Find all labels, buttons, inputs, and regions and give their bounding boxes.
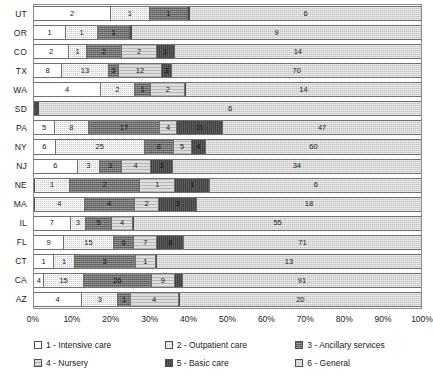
stacked-bar[interactable]: 91567871 — [33, 235, 422, 250]
bar-segment[interactable]: 8 — [34, 64, 62, 77]
bar-segment[interactable]: 4 — [160, 121, 177, 134]
bar-segment[interactable]: 6 — [114, 236, 134, 249]
legend-item[interactable]: 3 - Ancillary services — [295, 336, 426, 354]
bar-segment[interactable]: 5 — [86, 217, 112, 230]
stacked-bar[interactable]: 4212014 — [33, 82, 422, 97]
bar-segment[interactable]: 3 — [175, 274, 183, 287]
bar-segment[interactable]: 2 — [151, 83, 185, 96]
legend-item[interactable]: 1 - Intensive care — [34, 336, 165, 354]
stacked-bar[interactable]: 4314020 — [33, 292, 422, 307]
bar-segment[interactable]: 1 — [175, 179, 210, 192]
bar-segment[interactable]: 3 — [75, 255, 136, 268]
bar-segment[interactable]: 55 — [134, 217, 421, 230]
bar-segment[interactable]: 26 — [84, 274, 152, 287]
bar-segment[interactable]: 2 — [87, 45, 122, 58]
stacked-bar[interactable]: 211006 — [33, 6, 422, 21]
bar-segment[interactable]: 2 — [34, 7, 111, 20]
bar-segment[interactable]: 70 — [172, 64, 421, 77]
bar-segment[interactable]: 4 — [34, 274, 44, 287]
bar-segment[interactable]: 1 — [54, 255, 74, 268]
bar-segment[interactable]: 25 — [56, 140, 146, 153]
bar-segment[interactable]: 1 — [140, 179, 175, 192]
bar-segment[interactable]: 6 — [34, 140, 56, 153]
bar-segment[interactable]: 3 — [162, 64, 173, 77]
bar-segment[interactable]: 2 — [34, 45, 69, 58]
bar-segment[interactable]: 2 — [135, 198, 160, 211]
bar-segment[interactable]: 71 — [184, 236, 421, 249]
stacked-bar[interactable]: 1131013 — [33, 254, 422, 269]
bar-segment[interactable]: 34 — [173, 160, 421, 173]
bar-segment[interactable]: 11 — [177, 121, 223, 134]
bar-segment[interactable]: 14 — [175, 45, 421, 58]
bar-segment[interactable]: 20 — [180, 293, 421, 306]
bar-segment[interactable]: 1 — [118, 293, 130, 306]
bar-segment[interactable]: 5 — [174, 140, 192, 153]
bar-segment[interactable]: 13 — [62, 64, 108, 77]
legend-item[interactable]: 5 - Basic care — [165, 354, 296, 372]
bar-segment[interactable]: 2 — [122, 45, 157, 58]
bar-segment[interactable]: 47 — [223, 121, 421, 134]
bar-segment[interactable]: 1 — [69, 45, 87, 58]
bar-segment[interactable]: 4 — [34, 293, 82, 306]
bar-segment[interactable]: 6 — [39, 102, 421, 115]
bar-segment[interactable]: 1 — [136, 255, 156, 268]
bar-segment[interactable]: 3 — [78, 160, 100, 173]
bar-segment[interactable]: 3 — [159, 198, 196, 211]
stacked-bar[interactable]: 2122114 — [33, 44, 422, 59]
bar-segment[interactable]: 7 — [134, 236, 157, 249]
bar-segment[interactable]: 15 — [64, 236, 114, 249]
bar-segment[interactable]: 2 — [101, 83, 135, 96]
stacked-bar[interactable]: 7354055 — [33, 216, 422, 231]
bar-segment[interactable]: 9 — [132, 26, 421, 39]
bar-segment[interactable]: 60 — [206, 140, 421, 153]
legend-item[interactable]: 2 - Outpatient care — [165, 336, 296, 354]
stacked-bar[interactable]: 111009 — [33, 25, 422, 40]
stacked-bar[interactable]: 000006 — [33, 101, 422, 116]
stacked-bar[interactable]: 0442318 — [33, 197, 422, 212]
bar-segment[interactable]: 9 — [34, 236, 64, 249]
bar-segment[interactable]: 4 — [34, 83, 101, 96]
bar-segment[interactable]: 3 — [71, 217, 87, 230]
bar-segment[interactable]: 14 — [186, 83, 421, 96]
bar-segment[interactable]: 1 — [157, 45, 175, 58]
bar-segment[interactable]: 1 — [98, 26, 130, 39]
stacked-bar[interactable]: 415269391 — [33, 273, 422, 288]
stacked-bar[interactable]: 581741147 — [33, 120, 422, 135]
bar-segment[interactable]: 1 — [34, 255, 54, 268]
stacked-bar[interactable]: 012116 — [33, 178, 422, 193]
bar-segment[interactable]: 18 — [197, 198, 421, 211]
bar-segment[interactable]: 8 — [157, 236, 184, 249]
bar-segment[interactable]: 3 — [109, 64, 120, 77]
bar-segment[interactable]: 4 — [122, 160, 151, 173]
bar-segment[interactable]: 9 — [152, 274, 176, 287]
bar-segment[interactable]: 1 — [135, 83, 152, 96]
bar-segment[interactable]: 6 — [34, 160, 78, 173]
bar-segment[interactable]: 2 — [70, 179, 140, 192]
bar-segment[interactable]: 8 — [145, 140, 174, 153]
legend-item[interactable]: 4 - Nursery — [34, 354, 165, 372]
bar-segment[interactable]: 13 — [157, 255, 421, 268]
bar-segment[interactable]: 1 — [35, 179, 70, 192]
stacked-bar[interactable]: 6334334 — [33, 159, 422, 174]
bar-segment[interactable]: 8 — [55, 121, 89, 134]
stacked-bar[interactable]: 62585460 — [33, 139, 422, 154]
bar-segment[interactable]: 4 — [192, 140, 206, 153]
bar-segment[interactable]: 3 — [151, 160, 173, 173]
bar-segment[interactable]: 1 — [34, 26, 66, 39]
bar-segment[interactable]: 7 — [34, 217, 71, 230]
bar-segment[interactable]: 91 — [183, 274, 421, 287]
bar-segment[interactable]: 3 — [100, 160, 122, 173]
bar-segment[interactable]: 4 — [35, 198, 85, 211]
bar-segment[interactable]: 3 — [82, 293, 118, 306]
bar-segment[interactable]: 1 — [150, 7, 189, 20]
bar-segment[interactable]: 4 — [85, 198, 135, 211]
bar-segment[interactable]: 6 — [190, 7, 421, 20]
bar-segment[interactable]: 1 — [66, 26, 98, 39]
stacked-bar[interactable]: 813312370 — [33, 63, 422, 78]
bar-segment[interactable]: 15 — [44, 274, 83, 287]
bar-segment[interactable]: 17 — [89, 121, 161, 134]
bar-segment[interactable]: 4 — [131, 293, 179, 306]
bar-segment[interactable]: 12 — [119, 64, 162, 77]
legend-item[interactable]: 6 - General — [295, 354, 426, 372]
bar-segment[interactable]: 1 — [111, 7, 150, 20]
